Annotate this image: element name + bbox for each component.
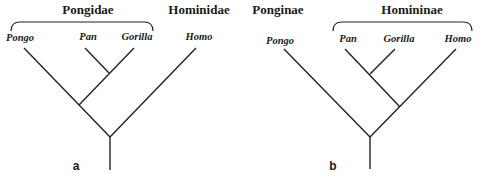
cladogram-a: Pongidae Hominidae Pongo Pan Gorilla Hom…	[6, 2, 230, 173]
cladogram-b: Ponginae Homininae Pongo Pan Gorilla Hom…	[252, 2, 472, 173]
taxon-pongo-a: Pongo	[6, 32, 34, 43]
taxon-homo-a: Homo	[185, 31, 213, 42]
branch-gorilla-b	[370, 49, 395, 74]
group-label-ponginae: Ponginae	[252, 2, 304, 17]
group-label-hominidae: Hominidae	[168, 2, 230, 17]
taxon-homo-b: Homo	[444, 33, 472, 44]
taxon-pan-a: Pan	[79, 31, 97, 42]
taxon-gorilla-a: Gorilla	[122, 31, 153, 42]
branch-gorilla-a	[79, 48, 134, 105]
branch-pan-a	[85, 48, 109, 73]
panel-label-b: b	[329, 159, 336, 173]
bracket-pongidae	[11, 22, 153, 31]
taxon-pan-b: Pan	[339, 33, 357, 44]
group-label-homininae: Homininae	[381, 2, 443, 17]
bracket-homininae	[333, 22, 472, 31]
branch-homo-b	[370, 49, 456, 137]
branch-homo-a	[110, 48, 196, 137]
panel-label-a: a	[73, 159, 80, 173]
group-label-pongidae: Pongidae	[62, 2, 114, 17]
taxon-pongo-b: Pongo	[266, 35, 294, 46]
taxon-gorilla-b: Gorilla	[384, 33, 415, 44]
cladogram-figure: Pongidae Hominidae Pongo Pan Gorilla Hom…	[0, 0, 482, 178]
branch-pan-b	[345, 49, 400, 107]
